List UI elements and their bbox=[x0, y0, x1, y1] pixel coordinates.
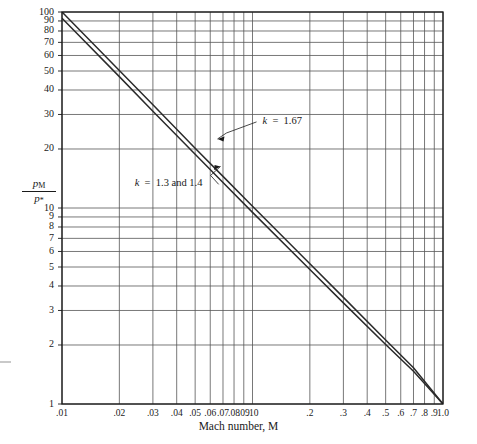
log-log-chart bbox=[0, 0, 477, 444]
x-tick-label: .02 bbox=[108, 408, 130, 418]
y-tick-label: 30 bbox=[28, 108, 54, 119]
y-tick-label: 70 bbox=[28, 36, 54, 47]
y-tick-label: 60 bbox=[28, 49, 54, 60]
y-tick-label: 7 bbox=[28, 232, 54, 243]
x-tick-label: .03 bbox=[142, 408, 164, 418]
annotation-k-167: k = 1.67 bbox=[263, 115, 302, 126]
x-tick-label: .10 bbox=[242, 408, 264, 418]
x-tick-label: .3 bbox=[332, 408, 354, 418]
page-edge-mark bbox=[0, 361, 11, 363]
y-tick-label: 3 bbox=[28, 304, 54, 315]
y-tick-label: 50 bbox=[28, 65, 54, 76]
y-tick-label: 4 bbox=[28, 279, 54, 290]
x-tick-label: .01 bbox=[51, 408, 73, 418]
y-tick-label: 8 bbox=[28, 220, 54, 231]
y-tick-label: 2 bbox=[28, 338, 54, 349]
y-tick-label: 6 bbox=[28, 245, 54, 256]
y-tick-label: 40 bbox=[28, 83, 54, 94]
y-tick-label: 1 bbox=[28, 398, 54, 409]
y-tick-label: 10 bbox=[28, 202, 54, 213]
y-tick-label: 20 bbox=[28, 142, 54, 153]
annotation-k-13-14: k = 1.3 and 1.4 bbox=[135, 177, 203, 188]
y-tick-label: 80 bbox=[28, 24, 54, 35]
x-axis-title: Mach number, M bbox=[0, 420, 477, 432]
chart-background bbox=[0, 0, 477, 444]
y-tick-label: 100 bbox=[28, 6, 54, 17]
y-tick-label: 5 bbox=[28, 261, 54, 272]
x-tick-label: .2 bbox=[299, 408, 321, 418]
x-tick-label: 1.0 bbox=[432, 408, 454, 418]
